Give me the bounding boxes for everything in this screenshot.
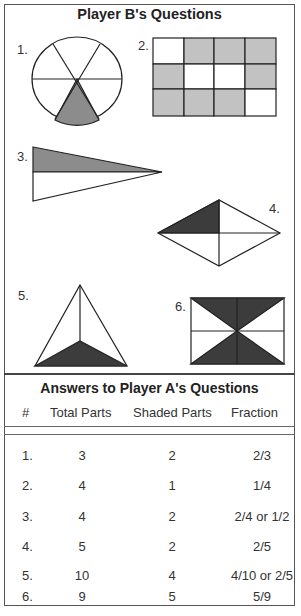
row-number: 2.	[22, 478, 33, 493]
figure-5-triangle	[35, 285, 127, 366]
question-2-label: 2.	[138, 38, 149, 53]
row-number: 3.	[22, 509, 33, 524]
total-parts: 4	[62, 478, 102, 493]
fraction-figures	[0, 0, 301, 372]
question-5-label: 5.	[18, 288, 29, 303]
question-4-label: 4.	[269, 201, 280, 216]
total-parts: 3	[62, 448, 102, 463]
header-rule-top	[4, 426, 295, 427]
total-parts: 10	[62, 568, 102, 583]
section-divider	[4, 373, 295, 375]
figure-3-triangle	[33, 147, 162, 201]
question-6-label: 6.	[175, 299, 186, 314]
column-header-total: Total Parts	[50, 405, 111, 420]
fraction: 5/9	[222, 589, 301, 604]
figure-1-circle	[32, 37, 122, 125]
row-number: 6.	[22, 589, 33, 604]
shaded-parts: 4	[152, 568, 192, 583]
question-3-label: 3.	[17, 149, 28, 164]
header-rule-bottom	[4, 434, 295, 435]
shaded-parts: 2	[152, 448, 192, 463]
shaded-parts: 5	[152, 589, 192, 604]
figure-6-rectangle	[191, 298, 284, 364]
row-number: 4.	[22, 539, 33, 554]
column-header-fraction: Fraction	[231, 405, 278, 420]
fraction: 2/3	[222, 448, 301, 463]
figure-2-grid	[153, 38, 276, 116]
row-number: 1.	[22, 448, 33, 463]
fraction: 2/4 or 1/2	[222, 509, 301, 524]
fraction: 4/10 or 2/5	[222, 568, 301, 583]
figure-4-rhombus	[158, 200, 280, 266]
shaded-parts: 1	[152, 478, 192, 493]
shaded-parts: 2	[152, 539, 192, 554]
fraction: 1/4	[222, 478, 301, 493]
total-parts: 9	[62, 589, 102, 604]
question-1-label: 1.	[17, 42, 28, 57]
total-parts: 4	[62, 509, 102, 524]
fraction: 2/5	[222, 539, 301, 554]
answers-title: Answers to Player A's Questions	[4, 380, 295, 396]
total-parts: 5	[62, 539, 102, 554]
column-header-shaded: Shaded Parts	[133, 405, 212, 420]
column-header-number: #	[22, 405, 29, 420]
shaded-parts: 2	[152, 509, 192, 524]
row-number: 5.	[22, 568, 33, 583]
